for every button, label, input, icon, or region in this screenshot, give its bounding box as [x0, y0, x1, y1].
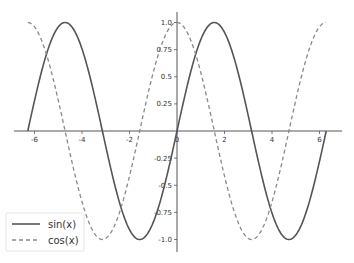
legend-label-sin: sin(x)	[48, 219, 76, 230]
y-tick-label: -1.0	[158, 236, 172, 244]
x-tick-label: -4	[79, 136, 87, 144]
x-tick-label: 6	[317, 136, 322, 144]
x-tick-label: 2	[222, 136, 226, 144]
y-tick-label: 0.25	[156, 100, 172, 108]
y-tick-label: -0.25	[154, 155, 172, 163]
y-tick-label: 1.0	[161, 19, 172, 27]
legend: sin(x) cos(x)	[6, 213, 84, 251]
y-tick-label: 0.75	[156, 46, 172, 54]
x-tick-label: -6	[31, 136, 39, 144]
x-tick-label: 4	[270, 136, 275, 144]
y-tick-label: 0.5	[161, 73, 172, 81]
legend-label-cos: cos(x)	[48, 235, 79, 246]
chart-canvas: -6-4-20246 1.00.750.50.25-0.25-0.5-0.75-…	[0, 0, 354, 263]
x-tick-label: -2	[126, 136, 133, 144]
